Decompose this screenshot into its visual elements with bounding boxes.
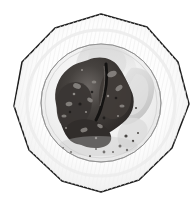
screenshot-canvas: Overhead photograph of a white decagonal… — [0, 0, 196, 202]
food-shadow — [58, 136, 138, 156]
plate-photograph — [0, 0, 196, 202]
photo-content — [0, 0, 196, 202]
plate-photo-svg — [0, 0, 196, 202]
